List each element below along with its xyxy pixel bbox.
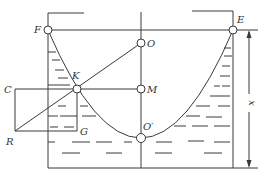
dimension-label-x: x <box>247 100 258 106</box>
label-f: F <box>33 24 42 35</box>
rotating-liquid-diagram: x F E O K M C R G O′ <box>0 0 261 181</box>
point-o <box>137 39 145 47</box>
label-m: M <box>146 84 158 95</box>
point-m <box>137 85 145 93</box>
point-k <box>73 85 81 93</box>
label-o-prime: O′ <box>143 121 154 132</box>
label-e: E <box>236 14 245 25</box>
label-r: R <box>5 136 14 147</box>
point-f <box>44 26 52 34</box>
label-o: O <box>147 38 155 49</box>
point-e <box>229 26 237 34</box>
right-wall <box>192 11 233 168</box>
arrow-down-icon <box>247 160 252 168</box>
label-c: C <box>4 84 12 95</box>
dimension-x: x <box>247 30 259 168</box>
arrow-up-icon <box>247 30 252 38</box>
label-k: K <box>71 70 80 81</box>
label-g: G <box>80 126 88 137</box>
point-o-prime <box>137 134 146 143</box>
